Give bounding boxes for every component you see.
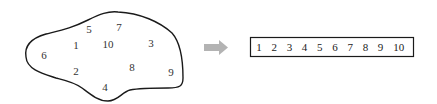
set-element-label: 8 bbox=[129, 61, 135, 73]
sequence-element-label: 10 bbox=[393, 41, 405, 53]
set-element-label: 1 bbox=[73, 39, 79, 51]
set-element-label: 9 bbox=[168, 66, 174, 78]
set-element-label: 7 bbox=[116, 21, 122, 33]
sequence-element-label: 3 bbox=[287, 41, 293, 53]
set-element-label: 2 bbox=[73, 65, 79, 77]
diagram-canvas: 57110368924 12345678910 bbox=[0, 0, 437, 104]
set-element-label: 10 bbox=[103, 38, 115, 50]
sequence-element-label: 1 bbox=[256, 41, 262, 53]
sequence-element-label: 8 bbox=[363, 41, 369, 53]
sequence-element-label: 6 bbox=[332, 41, 338, 53]
set-element-label: 6 bbox=[41, 49, 47, 61]
sequence-element-label: 2 bbox=[271, 41, 277, 53]
sequence-element-label: 7 bbox=[347, 41, 353, 53]
set-element-label: 5 bbox=[86, 23, 92, 35]
set-element-label: 4 bbox=[102, 81, 108, 93]
sequence-element-label: 9 bbox=[378, 41, 384, 53]
sequence-element-label: 4 bbox=[302, 41, 308, 53]
set-elements: 57110368924 bbox=[41, 21, 174, 93]
set-element-label: 3 bbox=[148, 37, 154, 49]
sequence-element-label: 5 bbox=[317, 41, 323, 53]
arrow-right-icon bbox=[204, 40, 228, 55]
